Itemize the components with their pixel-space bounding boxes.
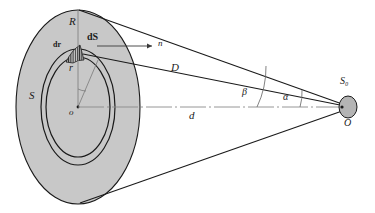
angle-beta-arc	[257, 66, 266, 107]
diagram-svg	[0, 0, 375, 213]
angle-alpha-arc	[300, 90, 302, 107]
label-distance-D: D	[171, 62, 179, 73]
label-inner-radius: r	[69, 63, 73, 73]
figure-canvas: R r S o dS dr n D d β α S₀ O	[0, 0, 375, 213]
label-outer-radius: R	[69, 16, 76, 27]
label-element-area: dS	[87, 32, 98, 42]
label-angle-beta: β	[242, 87, 247, 97]
label-source-area: S	[29, 90, 35, 101]
label-angle-alpha: α	[283, 92, 288, 102]
detector-point-O-dot	[340, 105, 343, 108]
label-detector-point: O	[344, 118, 351, 128]
label-distance-d: d	[189, 110, 195, 121]
label-normal-vector: n	[158, 39, 163, 48]
label-detector-area: S₀	[340, 76, 348, 86]
label-center-point: o	[69, 108, 74, 117]
label-element-width: dr	[53, 41, 61, 49]
